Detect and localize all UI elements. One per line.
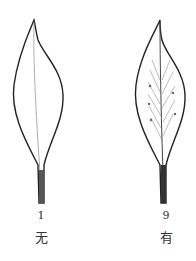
figure-number-1: 1	[26, 209, 56, 222]
figure-caption-9: 有	[151, 227, 181, 246]
leaf-illustration-1	[0, 0, 98, 210]
leaf-illustration-9	[98, 0, 196, 210]
figure-number-9: 9	[151, 209, 181, 222]
figure-caption-1: 无	[26, 227, 56, 246]
